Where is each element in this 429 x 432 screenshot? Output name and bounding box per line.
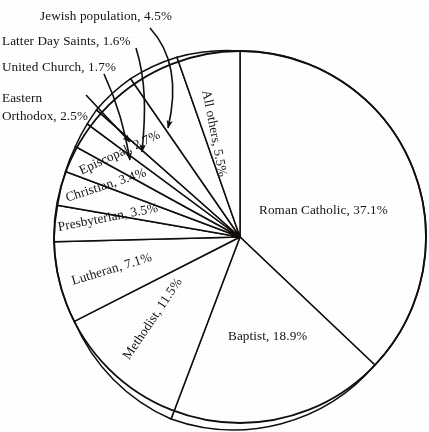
label-jewish-population: Jewish population, 4.5%: [40, 8, 172, 25]
label-roman-catholic: Roman Catholic, 37.1%: [259, 202, 388, 219]
label-eastern-orthodox-line2: Orthodox, 2.5%: [2, 108, 88, 125]
pie-chart: Jewish population, 4.5% Latter Day Saint…: [0, 0, 429, 432]
pie-wedges: [54, 51, 426, 430]
label-eastern-orthodox-line1: Eastern: [2, 90, 42, 107]
label-united-church: United Church, 1.7%: [2, 59, 116, 76]
label-baptist: Baptist, 18.9%: [228, 328, 307, 345]
label-latter-day-saints: Latter Day Saints, 1.6%: [2, 33, 131, 50]
